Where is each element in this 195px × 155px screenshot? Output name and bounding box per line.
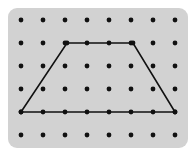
peg-r1-c4 [85, 18, 90, 23]
peg-r6-c7 [151, 133, 156, 138]
peg-r3-c3 [63, 64, 68, 69]
peg-r6-c2 [41, 133, 46, 138]
peg-r4-c5 [107, 87, 112, 92]
peg-r1-c5 [107, 18, 112, 23]
vertex-peg-bottom-left [19, 110, 24, 115]
peg-r6-c5 [107, 133, 112, 138]
vertex-peg-bottom-right [173, 110, 178, 115]
peg-r3-c2 [41, 64, 46, 69]
peg-r1-c8 [173, 18, 178, 23]
peg-r4-c3 [63, 87, 68, 92]
peg-r4-c6 [129, 87, 134, 92]
geoboard-board [8, 8, 188, 148]
peg-r6-c3 [63, 133, 68, 138]
peg-r1-c7 [151, 18, 156, 23]
peg-r6-c1 [19, 133, 24, 138]
peg-r6-c6 [129, 133, 134, 138]
peg-r3-c8 [173, 64, 178, 69]
peg-r2-c8 [173, 41, 178, 46]
peg-r2-c1 [19, 41, 24, 46]
peg-r4-c4 [85, 87, 90, 92]
vertex-peg-top-left [65, 41, 70, 46]
peg-r4-c2 [41, 87, 46, 92]
peg-r3-c4 [85, 64, 90, 69]
peg-r6-c8 [173, 133, 178, 138]
peg-r3-c1 [19, 64, 24, 69]
vertex-peg-top-right [131, 41, 136, 46]
peg-r1-c3 [63, 18, 68, 23]
peg-r3-c5 [107, 64, 112, 69]
peg-r4-c7 [151, 87, 156, 92]
peg-r1-c6 [129, 18, 134, 23]
peg-r2-c7 [151, 41, 156, 46]
peg-r3-c7 [151, 64, 156, 69]
peg-r2-c2 [41, 41, 46, 46]
peg-r4-c1 [19, 87, 24, 92]
geoboard-figure [0, 0, 195, 155]
peg-r1-c1 [19, 18, 24, 23]
peg-r1-c2 [41, 18, 46, 23]
peg-r3-c6 [129, 64, 134, 69]
peg-r4-c8 [173, 87, 178, 92]
peg-r6-c4 [85, 133, 90, 138]
geoboard-canvas [0, 0, 195, 155]
